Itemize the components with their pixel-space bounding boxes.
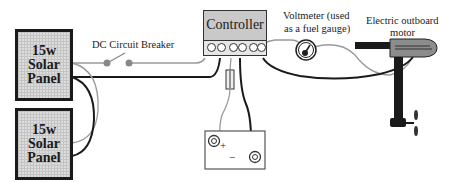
solar-panel-2-label-panel: Panel (27, 151, 60, 165)
breaker-contact-left (104, 60, 111, 67)
battery-positive-sign: + (220, 139, 226, 151)
motor-shaft (394, 57, 403, 119)
motor-tiller-handle (355, 42, 393, 49)
breaker-switch-lever (109, 53, 125, 62)
solar-panel-2-label-solar: Solar (28, 137, 60, 151)
breaker-label: DC Circuit Breaker (92, 39, 174, 51)
controller-terminal-strip (204, 40, 266, 55)
voltmeter-label-line2: as a fuel gauge) (284, 23, 350, 35)
motor-label-line2: motor (390, 27, 415, 39)
motor-lower-unit (390, 118, 406, 127)
solar-panel-2-wattage: 15w (32, 123, 56, 137)
propeller-icon (414, 110, 418, 120)
solar-panel-1-label-solar: Solar (28, 58, 60, 72)
solar-panel-1-wattage: 15w (32, 44, 56, 58)
voltmeter-label-line1: Voltmeter (used (283, 10, 350, 22)
wire-panel-series-light (72, 63, 98, 143)
controller-terminal-2 (217, 43, 226, 52)
controller-terminal-4 (238, 43, 247, 52)
wire-breaker-to-controller (130, 58, 205, 63)
motor-label-line1: Electric outboard (366, 15, 439, 27)
solar-panel-1: 15w Solar Panel (15, 29, 73, 101)
controller-terminal-6 (257, 43, 266, 52)
controller-label: Controller (204, 17, 266, 33)
controller: Controller (203, 10, 267, 56)
wire-panel-series-dark (72, 77, 94, 156)
solar-panel-2: 15w Solar Panel (15, 108, 73, 180)
breaker-contact-right (126, 60, 133, 67)
motor-head (390, 39, 437, 57)
controller-terminal-3 (229, 43, 238, 52)
solar-panel-1-label-panel: Panel (27, 72, 60, 86)
battery-negative-sign: − (229, 151, 235, 163)
controller-terminal-1 (207, 43, 216, 52)
wire-panel-negative (72, 58, 220, 77)
